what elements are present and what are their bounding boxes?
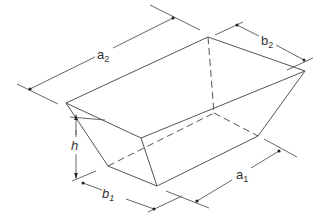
- top-edge-back-short: [208, 37, 305, 71]
- dimension-b2: b2: [215, 22, 313, 70]
- dimension-line-a2-lower: [30, 57, 95, 89]
- dimension-line-b1-left: [83, 183, 102, 190]
- hidden-bottom-edge-left-long: [108, 113, 214, 166]
- arrow-dot-icon: [195, 199, 198, 202]
- arrow-dot-icon: [171, 16, 174, 19]
- dimension-line-b2-left: [237, 25, 259, 36]
- dimension-line-b2-right: [276, 45, 304, 60]
- label-a2: a2: [97, 47, 109, 64]
- extension-line-a1-right: [264, 139, 297, 157]
- dimension-line-a1-lower: [197, 180, 232, 201]
- label-h: h: [71, 138, 78, 153]
- extension-line-b2-left: [215, 22, 243, 35]
- hidden-bottom-edge-back-short: [214, 113, 258, 136]
- extension-line-a1-left: [166, 191, 209, 208]
- label-a1: a1: [236, 167, 248, 184]
- arrow-dot-icon: [303, 59, 306, 62]
- prismoid-diagram: a2 b2 h b1 a1: [0, 0, 325, 219]
- dimension-line-a2-upper: [113, 18, 173, 48]
- dimension-a2: a2: [17, 5, 200, 104]
- arrow-dot-icon: [153, 208, 156, 211]
- arrow-dot-icon: [277, 149, 280, 152]
- dimension-line-a1-upper: [251, 151, 279, 168]
- label-b2: b2: [261, 33, 273, 50]
- arrow-down-icon: [74, 173, 78, 179]
- arrow-dot-icon: [236, 24, 239, 27]
- extension-line-a2-left: [17, 84, 58, 104]
- bottom-edge-front-short: [108, 166, 157, 186]
- arrow-dot-icon: [28, 87, 31, 90]
- extension-line-b2-right: [287, 58, 313, 70]
- dimension-line-b1-right: [126, 199, 154, 209]
- hidden-edge-back-left: [208, 37, 214, 113]
- dimension-h: h: [70, 114, 113, 179]
- label-b1: b1: [102, 186, 114, 203]
- arrow-dot-icon: [82, 182, 85, 185]
- top-edge-left-long: [66, 37, 208, 103]
- dimension-b1: b1: [72, 171, 182, 212]
